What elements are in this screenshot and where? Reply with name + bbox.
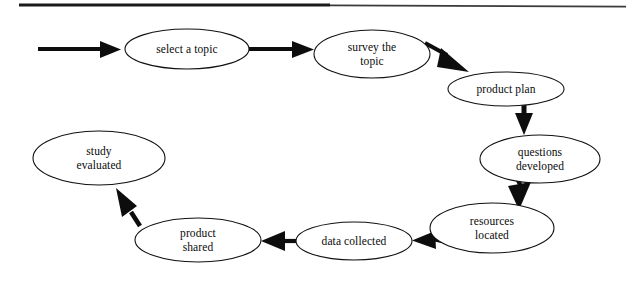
node-product-shared[interactable] [135,218,261,262]
edge-entry-arrow [38,41,121,58]
edge-select-to-survey [249,41,314,58]
node-survey-the-topic[interactable] [314,30,430,78]
node-data-collected[interactable] [296,222,412,260]
flowchart-canvas [0,0,626,281]
top-horizontal-rule-right [330,5,626,6]
node-product-plan[interactable] [448,72,564,106]
edge-data-to-product-shared [261,231,297,251]
edge-survey-to-product-plan [425,43,469,72]
node-questions-developed[interactable] [480,135,600,183]
node-select-a-topic[interactable] [125,29,249,69]
edge-product-shared-to-study [116,188,140,226]
node-study-evaluated[interactable] [33,131,165,185]
flowchart-diagram: select a topic survey the topic product … [0,0,626,281]
node-resources-located[interactable] [430,203,554,253]
